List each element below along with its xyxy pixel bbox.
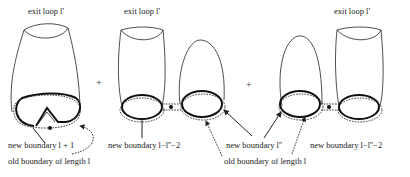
new-boundary-3a: [280, 91, 320, 117]
exit-loop-label-1: exit loop l': [28, 6, 64, 16]
new-boundary-3b: [339, 95, 379, 119]
plus-sign-2: +: [246, 79, 252, 90]
marked-point-3: [327, 105, 331, 109]
arrow-new-boundary-3: [264, 112, 281, 138]
new-boundary-label-2: new boundary l−l''−2: [108, 140, 180, 150]
exit-loop-1: [24, 24, 68, 38]
new-boundary-label-1: new boundary l + 1: [8, 140, 74, 150]
exit-loop-2: [121, 27, 163, 40]
exit-loop-label-2: exit loop l': [124, 6, 160, 16]
marked-point-1: [48, 126, 52, 130]
arrow-to-loop-boundary-2: [224, 110, 252, 136]
loop-boundary-2: [182, 91, 222, 117]
new-boundary-label-3: new boundary l'': [226, 140, 282, 150]
marked-point-2: [169, 105, 173, 109]
new-boundary-label-4: new boundary l−l''−2: [310, 140, 382, 150]
arrow-old-boundary-2: [206, 121, 222, 156]
old-boundary-label-1: old boundary of length l: [8, 156, 91, 166]
old-boundary-label-2: old boundary of length l: [224, 156, 307, 166]
new-boundary-2: [122, 95, 162, 119]
arrow-old-boundary-1: [72, 126, 93, 154]
panel-2: exit loop l' new boundary l−l''−2: [108, 6, 225, 150]
exit-loop-3: [337, 27, 381, 40]
exit-loop-label-3: exit loop l': [334, 6, 370, 16]
diagram-canvas: exit loop l' new boundary l + 1 old boun…: [0, 0, 410, 177]
arrow-old-boundary-3: [292, 117, 305, 154]
plus-sign-1: +: [96, 77, 102, 88]
panel-1: exit loop l' new boundary l + 1 old boun…: [8, 6, 93, 166]
